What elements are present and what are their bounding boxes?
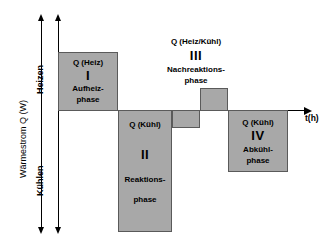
phase-2-numeral: II [118, 147, 172, 162]
x-axis-label: t(h) [305, 113, 319, 123]
bar-phase-3b [200, 88, 228, 111]
phase-2-name-line2: phase [118, 195, 172, 204]
phase-2-heat-label: Q (Kühl) [118, 120, 172, 129]
phase-4-heat-label: Q (Kühl) [228, 118, 288, 127]
phase-3-numeral: III [150, 48, 242, 63]
phase-1-name-line2: phase [58, 95, 118, 104]
heat-flow-diagram: t(h) Wärmestrom Q (W) Heizen Kühlen Q (H… [0, 0, 335, 250]
phase-4-numeral: IV [228, 128, 288, 143]
phase-1-numeral: I [58, 68, 118, 83]
phase-1-heat-label: Q (Heiz) [58, 58, 118, 67]
y-axis-heating-label: Heizen [36, 65, 45, 94]
phase-2-name-line1: Reaktions- [112, 175, 178, 184]
phase-3-heat-label: Q (Heiz/Kühl) [150, 37, 242, 46]
phase-3-name-line1: Nachreaktions- [146, 65, 246, 74]
y-axis-cooling-label: Kühlen [36, 166, 45, 197]
phase-1-name-line1: Aufheiz- [58, 84, 118, 93]
bar-phase-3a [172, 110, 200, 128]
phase-4-name-line1: Abkühl- [228, 145, 288, 154]
y-axis-label: Wärmestrom Q (W) [19, 100, 28, 178]
phase-4-name-line2: phase [228, 156, 288, 165]
value-axis-arrow-down [55, 227, 61, 234]
outer-axis-arrow-down [38, 227, 44, 234]
phase-3-name-line2: phase [150, 76, 242, 85]
outer-axis-line [41, 20, 42, 228]
